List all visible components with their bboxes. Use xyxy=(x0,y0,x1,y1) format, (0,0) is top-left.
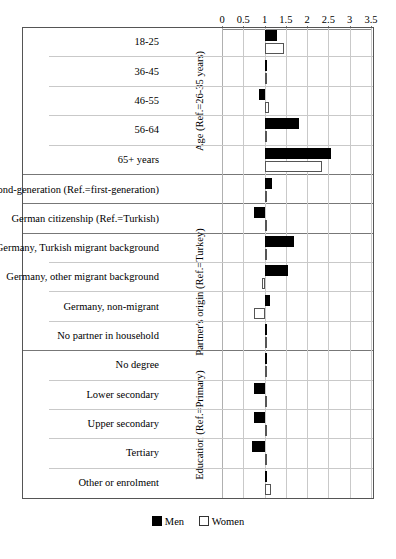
gridline xyxy=(286,469,287,498)
chart-frame: Age (Ref.=26-35 years)18-2536-4546-5556-… xyxy=(22,27,374,499)
gridline xyxy=(328,175,329,204)
chart-section: Partner's origin (Ref.=Turkey)Germany, T… xyxy=(23,234,373,352)
bar-women xyxy=(265,425,267,436)
gridline xyxy=(350,28,351,56)
gridline xyxy=(307,116,308,144)
gridline xyxy=(307,292,308,320)
row-plot xyxy=(161,381,373,409)
gridline xyxy=(307,439,308,467)
row-plot xyxy=(161,234,373,262)
row-label: Second-generation (Ref.=first-generation… xyxy=(0,184,159,196)
gridline xyxy=(371,146,372,175)
row-label: 56-64 xyxy=(0,125,159,137)
gridline xyxy=(222,292,223,320)
row-label: No degree xyxy=(0,360,159,372)
bar-men xyxy=(265,265,288,276)
gridline xyxy=(350,263,351,291)
chart-row: Other or enrolment xyxy=(49,469,373,498)
chart-section: Education (Ref.=Primary)No degreeLower s… xyxy=(23,351,373,498)
row-label: Other or enrolment xyxy=(0,478,159,490)
row-label: 65+ years xyxy=(0,154,159,166)
gridline xyxy=(222,146,223,175)
gridline xyxy=(307,351,308,379)
row-label: Tertiary xyxy=(0,448,159,460)
gridline xyxy=(286,57,287,85)
gridline xyxy=(222,116,223,144)
row-plot xyxy=(161,410,373,438)
gridline xyxy=(328,87,329,115)
gridline xyxy=(350,381,351,409)
row-plot xyxy=(161,351,373,379)
chart-row: German citizenship (Ref.=Turkish) xyxy=(49,204,373,233)
gridline xyxy=(286,204,287,233)
bar-women xyxy=(265,73,267,84)
bar-men xyxy=(265,30,278,41)
x-tick-label: 0.5 xyxy=(232,14,254,26)
section-rows: No degreeLower secondaryUpper secondaryT… xyxy=(49,351,373,498)
legend-item-men: Men xyxy=(152,516,184,527)
gridline xyxy=(243,439,244,467)
gridline xyxy=(286,410,287,438)
x-tick-label: 2 xyxy=(296,14,318,26)
chart-row: Lower secondary xyxy=(49,381,373,410)
gridline xyxy=(350,322,351,351)
gridline xyxy=(243,146,244,175)
gridline xyxy=(222,439,223,467)
gridline xyxy=(243,204,244,233)
chart-row: Germany, other migrant background xyxy=(49,263,373,292)
legend-swatch-men-icon xyxy=(152,516,162,526)
bar-men xyxy=(265,324,267,335)
gridline xyxy=(371,322,372,351)
section-rows: Germany, Turkish migrant backgroundGerma… xyxy=(49,234,373,351)
gridline xyxy=(243,175,244,204)
gridline xyxy=(371,469,372,498)
bar-men xyxy=(254,383,265,394)
gridline xyxy=(371,263,372,291)
gridline xyxy=(371,116,372,144)
gridline xyxy=(371,57,372,85)
row-plot xyxy=(161,28,373,56)
chart-row: Germany, non-migrant xyxy=(49,292,373,321)
gridline xyxy=(222,28,223,56)
bar-women xyxy=(262,278,264,289)
legend-item-women: Women xyxy=(199,516,244,527)
bar-women xyxy=(265,396,267,407)
gridline xyxy=(222,57,223,85)
gridline xyxy=(307,204,308,233)
bar-women xyxy=(265,220,267,231)
gridline xyxy=(371,28,372,56)
gridline xyxy=(307,410,308,438)
gridline xyxy=(307,28,308,56)
gridline xyxy=(222,351,223,379)
gridline xyxy=(371,87,372,115)
x-tick-label: 3 xyxy=(339,14,361,26)
gridline xyxy=(243,469,244,498)
x-tick-label: 1.5 xyxy=(275,14,297,26)
chart-row: Second-generation (Ref.=first-generation… xyxy=(49,175,373,204)
bar-women xyxy=(265,484,272,495)
gridline xyxy=(243,292,244,320)
gridline xyxy=(328,204,329,233)
x-tick-label: 0 xyxy=(211,14,233,26)
bar-men xyxy=(265,471,267,482)
bar-men xyxy=(265,60,267,71)
gridline xyxy=(350,116,351,144)
gridline xyxy=(286,87,287,115)
chart-row: 65+ years xyxy=(49,146,373,175)
row-label: 36-45 xyxy=(0,66,159,78)
gridline xyxy=(222,263,223,291)
section-rows: Second-generation (Ref.=first-generation… xyxy=(49,175,373,203)
gridline xyxy=(328,292,329,320)
gridline xyxy=(243,263,244,291)
gridline xyxy=(307,57,308,85)
bar-women xyxy=(265,337,267,348)
gridline xyxy=(328,439,329,467)
legend-label-men: Men xyxy=(165,516,184,527)
bar-men xyxy=(254,207,265,218)
bar-women xyxy=(265,131,267,142)
gridline xyxy=(350,351,351,379)
bar-women xyxy=(265,102,269,113)
bar-men xyxy=(265,353,268,364)
bar-men xyxy=(265,148,331,159)
row-plot xyxy=(161,322,373,351)
